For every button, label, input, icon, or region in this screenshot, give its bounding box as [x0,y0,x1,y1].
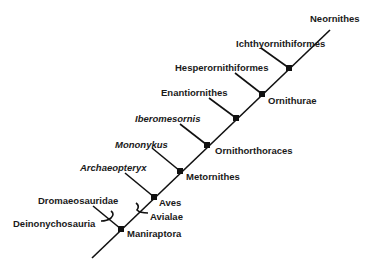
label-mononykus: Mononykus [115,140,168,150]
label-maniraptora: Maniraptora [127,229,181,239]
label-metornithes: Metornithes [186,172,240,182]
label-aves: Aves [159,198,181,208]
label-enantiornithes: Enantiornithes [161,88,228,98]
label-dromaeosauridae: Dromaeosauridae [38,196,118,206]
label-deinonychosauria: Deinonychosauria [13,219,95,229]
label-hesperornithiformes: Hesperornithiformes [175,63,268,73]
label-ornithurae: Ornithurae [268,96,317,106]
label-iberomesornis: Iberomesornis [135,114,200,124]
label-neornithes: Neornithes [310,14,360,24]
label-ichthyornithiformes: Ichthyornithiformes [236,39,325,49]
label-ornithorthoraces: Ornithorthoraces [215,146,293,156]
label-archaeopteryx: Archaeopteryx [80,163,147,173]
label-avialae: Avialae [150,212,183,222]
